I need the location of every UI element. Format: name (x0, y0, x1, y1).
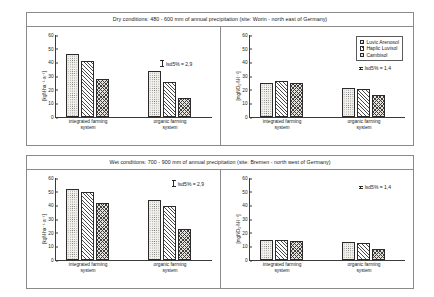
bar-cambisol (178, 98, 191, 117)
y-tick: 40 (48, 203, 56, 208)
x-axis-labels: integrated farming system organic farmin… (249, 119, 405, 137)
bar-luvic-arenosol (66, 54, 79, 117)
y-tick: 20 (242, 230, 250, 235)
panel-dry-title: Dry conditions: 480 - 600 mm of annual p… (27, 13, 413, 27)
y-tick: 50 (242, 189, 250, 194)
y-tick: 60 (48, 33, 56, 38)
bar-haplic-luvisol (163, 82, 176, 117)
lsd-annotation: lsd5% = 1,4 (359, 184, 391, 190)
bar-luvic-arenosol (148, 71, 161, 117)
bar-luvic-arenosol (66, 189, 79, 260)
panel-wet-body: [kgN·ha⁻¹·a⁻¹] 0 10 20 30 40 50 60 (27, 170, 413, 288)
chart-wet-nitrogen-balance: [kgN·ha⁻¹·a⁻¹] 0 10 20 30 40 50 60 (27, 170, 220, 288)
bar-haplic-luvisol (357, 243, 370, 260)
x-label-organic: organic farming system (137, 262, 203, 273)
y-tick: 50 (242, 46, 250, 51)
y-tick: 30 (48, 74, 56, 79)
bar-group-integrated (66, 178, 114, 260)
lsd-text: lsd5% = 2,9 (166, 61, 192, 67)
y-tick: 50 (48, 189, 56, 194)
y-tick: 60 (48, 176, 56, 181)
legend-label: Cambisol (366, 52, 387, 58)
bar-luvic-arenosol (260, 83, 273, 117)
y-tick: 60 (242, 176, 250, 181)
bars-container (56, 178, 212, 260)
bar-haplic-luvisol (275, 81, 288, 117)
bar-haplic-luvisol (81, 192, 94, 260)
bar-haplic-luvisol (163, 206, 176, 260)
y-tick: 20 (48, 230, 56, 235)
bar-group-organic (148, 178, 196, 260)
error-bar-icon (160, 60, 164, 67)
panel-dry-body: [kgN·ha⁻¹·a⁻¹] 0 10 20 30 40 50 60 (27, 27, 413, 145)
y-tick: 10 (242, 101, 250, 106)
legend-swatch-diagonal-icon (360, 46, 365, 51)
bar-cambisol (178, 229, 191, 260)
y-tick: 30 (48, 217, 56, 222)
bar-haplic-luvisol (357, 89, 370, 117)
bar-luvic-arenosol (342, 88, 355, 117)
y-axis-label: [mgNO₃-N·l⁻¹] (236, 71, 241, 100)
bar-cambisol (290, 83, 303, 117)
panel-wet-title: Wet conditions: 700 - 900 mm of annual p… (27, 156, 413, 170)
x-axis-labels: integrated farming system organic farmin… (55, 119, 212, 137)
bar-haplic-luvisol (81, 61, 94, 117)
bar-luvic-arenosol (342, 242, 355, 260)
y-axis-label: [kgN·ha⁻¹·a⁻¹] (42, 71, 47, 100)
error-bar-icon (359, 67, 363, 70)
y-tick: 50 (48, 46, 56, 51)
legend-item-cambisol: Cambisol (360, 52, 399, 58)
bar-group-organic (148, 35, 196, 117)
y-axis-label: [mgNO₃-N·l⁻¹] (236, 214, 241, 243)
x-label-organic: organic farming system (331, 119, 397, 130)
bars-container (56, 35, 212, 117)
x-axis-labels: integrated farming system organic farmin… (249, 262, 405, 280)
bar-luvic-arenosol (260, 240, 273, 260)
y-tick: 40 (48, 60, 56, 65)
bar-cambisol (96, 203, 109, 260)
y-tick: 10 (242, 244, 250, 249)
x-label-integrated: integrated farming system (249, 119, 315, 130)
legend-swatch-dots-icon (360, 40, 365, 45)
bar-group-organic (342, 178, 390, 260)
legend-swatch-grid-icon (360, 53, 365, 58)
lsd-text: lsd5% = 1,4 (365, 184, 391, 190)
bar-cambisol (96, 79, 109, 117)
error-bar-icon (359, 186, 363, 189)
x-label-organic: organic farming system (137, 119, 203, 130)
figure-root: Dry conditions: 480 - 600 mm of annual p… (0, 0, 434, 297)
bar-cambisol (372, 95, 385, 117)
bar-cambisol (372, 249, 385, 260)
y-tick: 20 (48, 87, 56, 92)
plot-area: 0 10 20 30 40 50 60 (55, 178, 212, 261)
lsd-annotation: lsd5% = 2,9 (172, 180, 204, 187)
y-tick: 30 (242, 217, 250, 222)
y-tick: 10 (48, 244, 56, 249)
lsd-annotation: lsd5% = 1,4 (359, 65, 391, 71)
chart-wet-nitrate-concentration: [mgNO₃-N·l⁻¹] 0 10 20 30 40 50 60 (221, 170, 413, 288)
lsd-text: lsd5% = 1,4 (365, 65, 391, 71)
bars-container (250, 178, 405, 260)
plot-area: 0 10 20 30 40 50 60 (249, 178, 405, 261)
bar-luvic-arenosol (148, 200, 161, 260)
lsd-text: lsd5% = 2,9 (178, 181, 204, 187)
bar-cambisol (290, 241, 303, 260)
y-tick: 40 (242, 60, 250, 65)
y-tick: 30 (242, 74, 250, 79)
x-axis-labels: integrated farming system organic farmin… (55, 262, 212, 280)
lsd-annotation: lsd5% = 2,9 (160, 60, 192, 67)
plot-area: 0 10 20 30 40 50 60 (249, 35, 405, 118)
x-label-integrated: integrated farming system (249, 262, 315, 273)
chart-dry-nitrogen-balance: [kgN·ha⁻¹·a⁻¹] 0 10 20 30 40 50 60 (27, 27, 220, 145)
panel-wet-conditions: Wet conditions: 700 - 900 mm of annual p… (26, 155, 414, 289)
bar-haplic-luvisol (275, 240, 288, 261)
y-tick: 40 (242, 203, 250, 208)
bar-group-integrated (260, 178, 308, 260)
y-tick: 10 (48, 101, 56, 106)
y-tick: 60 (242, 33, 250, 38)
bar-group-integrated (66, 35, 114, 117)
chart-dry-nitrate-concentration: [mgNO₃-N·l⁻¹] 0 10 20 30 40 50 60 (221, 27, 413, 145)
y-tick: 20 (242, 87, 250, 92)
panel-dry-conditions: Dry conditions: 480 - 600 mm of annual p… (26, 12, 414, 146)
bar-group-integrated (260, 35, 308, 117)
